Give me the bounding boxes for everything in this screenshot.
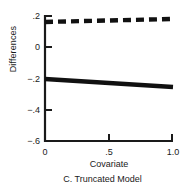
x-tick-label: 1.0 [158, 148, 188, 157]
x-axis-title: Covariate [44, 159, 174, 169]
figure-caption: C. Truncated Model [20, 174, 185, 184]
x-tick-label: .5 [94, 148, 124, 157]
series-line-solid-lower [45, 79, 173, 87]
chart-figure: Differences .2 0 −.2 −.4 −.6 0 .5 1.0 Co… [0, 0, 190, 188]
x-tick-label: 0 [30, 148, 60, 157]
series-line-dashed-upper [45, 19, 173, 22]
